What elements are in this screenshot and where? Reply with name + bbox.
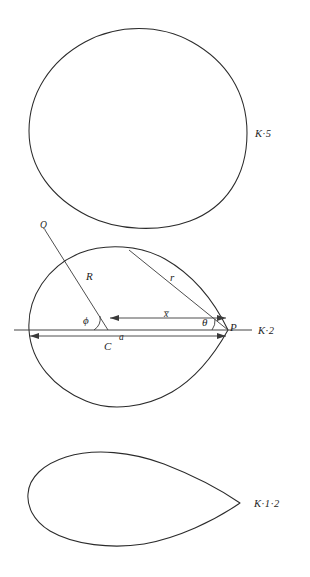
teardrop-profile-curve bbox=[28, 452, 240, 546]
radius-R-line bbox=[45, 230, 108, 330]
label-point-q: Q bbox=[40, 220, 47, 230]
angle-theta-arc bbox=[212, 319, 215, 330]
shape-k5-group: K·5 bbox=[29, 29, 272, 229]
dim-a-arrow-right bbox=[217, 333, 226, 339]
figure-canvas: K·5 Q R ϕ C a x̅ r θ P K·2 bbox=[0, 0, 310, 577]
label-k2: K·2 bbox=[257, 325, 275, 336]
dim-a-arrow-left bbox=[30, 333, 39, 339]
label-point-p: P bbox=[229, 321, 237, 333]
label-radius-r: r bbox=[170, 271, 175, 283]
label-dim-xbar: x̅ bbox=[163, 308, 170, 319]
shape-k12-group: K·1·2 bbox=[28, 452, 280, 546]
angle-phi-arc bbox=[94, 316, 100, 330]
label-k5: K·5 bbox=[254, 128, 272, 139]
near-circular-profile-curve bbox=[29, 29, 247, 229]
dim-xbar-arrow-left bbox=[110, 315, 119, 321]
label-angle-phi: ϕ bbox=[83, 314, 89, 326]
label-radius-R: R bbox=[85, 270, 93, 282]
label-angle-theta: θ bbox=[202, 316, 208, 328]
label-k12: K·1·2 bbox=[253, 498, 280, 509]
label-dim-a: a bbox=[119, 332, 124, 342]
dim-xbar-arrow-right bbox=[217, 315, 226, 321]
shape-k2-group: Q R ϕ C a x̅ r θ P K·2 bbox=[14, 220, 275, 407]
label-point-c: C bbox=[104, 340, 112, 352]
cardioid-profile-curve bbox=[29, 247, 228, 407]
